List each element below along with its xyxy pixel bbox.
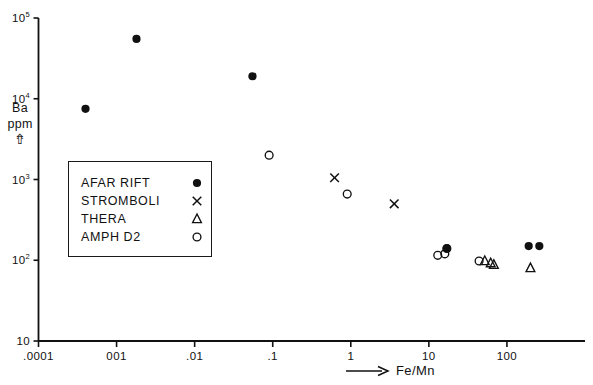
data-point (248, 72, 256, 80)
data-point (535, 242, 543, 250)
y-tick-label: 103 (0, 174, 30, 186)
legend-entry-label: STROMBOLI (81, 194, 160, 208)
y-tick-label: 102 (0, 254, 30, 266)
legend-entry-label: AMPH D2 (81, 230, 141, 244)
legend-marker-open-triangle-icon (189, 211, 205, 227)
data-point (390, 200, 399, 209)
legend-marker-cross-icon (189, 193, 205, 209)
legend-entry: AFAR RIFT (81, 174, 205, 191)
data-point (265, 151, 273, 159)
arrow-up-icon: ⇮ (2, 132, 38, 147)
scatter-plot-figure: 10510410310210 .0001001.01.1110100 Ba pp… (0, 0, 593, 385)
legend-entry-label: THERA (81, 212, 126, 226)
y-tick-label: 105 (0, 12, 30, 24)
x-tick-label: .1 (268, 350, 278, 362)
x-axis-label: Fe/Mn (345, 363, 435, 378)
legend-marker-filled-circle-icon (189, 175, 205, 191)
x-tick-label: .0001 (23, 350, 54, 362)
data-point (81, 105, 89, 113)
legend-entry: STROMBOLI (81, 192, 205, 209)
data-point (526, 263, 535, 272)
x-axis-label-text: Fe/Mn (396, 363, 435, 378)
data-point (343, 190, 351, 198)
x-tick-label: 1 (347, 350, 354, 362)
data-point (132, 35, 140, 43)
legend-marker-open-circle-icon (189, 229, 205, 245)
y-axis-label-line-2: ppm (2, 116, 38, 132)
y-tick-label: 10 (0, 335, 30, 347)
x-tick-label: 10 (422, 350, 436, 362)
data-point (330, 173, 339, 182)
legend-entry: AMPH D2 (81, 228, 205, 245)
x-tick-label: .01 (186, 350, 203, 362)
x-tick-label: 100 (497, 350, 517, 362)
legend-box: AFAR RIFTSTROMBOLITHERAAMPH D2 (68, 161, 212, 257)
x-tick-label: 001 (106, 350, 126, 362)
data-point (525, 242, 533, 250)
legend-entry-label: AFAR RIFT (81, 176, 150, 190)
y-axis-label: Ba ppm ⇮ (2, 100, 38, 147)
y-axis-label-line-1: Ba (2, 100, 38, 116)
legend-entry: THERA (81, 210, 205, 227)
arrow-right-icon (345, 365, 391, 377)
